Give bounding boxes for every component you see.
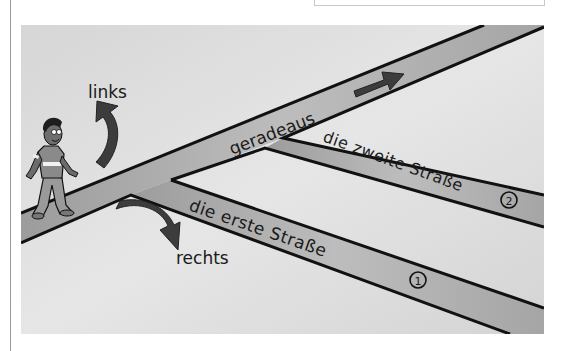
directions-illustration: links rechts geradeaus die zweite Straße… xyxy=(21,25,544,334)
caption-box xyxy=(314,0,545,6)
page-margin-rule xyxy=(10,0,11,351)
label-right: rechts xyxy=(176,248,229,268)
svg-text:1: 1 xyxy=(415,275,422,288)
label-left: links xyxy=(88,82,127,102)
svg-text:2: 2 xyxy=(506,195,513,208)
